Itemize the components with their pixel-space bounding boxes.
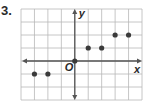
data-point: [126, 32, 131, 37]
grid-lines: [21, 9, 142, 100]
y-axis-arrow-down-icon: [72, 95, 77, 100]
data-point: [32, 71, 37, 76]
x-axis-arrow-left-icon: [22, 59, 27, 64]
coordinate-plane: x y O: [0, 0, 151, 111]
data-point: [86, 45, 91, 50]
origin-label: O: [65, 61, 74, 73]
data-point: [45, 71, 50, 76]
data-point: [99, 45, 104, 50]
y-axis-arrow-up-icon: [72, 9, 77, 14]
data-point: [113, 32, 118, 37]
y-axis-label: y: [78, 7, 86, 19]
data-points: [32, 32, 131, 76]
axes: [22, 9, 142, 100]
x-axis-label: x: [133, 63, 141, 75]
